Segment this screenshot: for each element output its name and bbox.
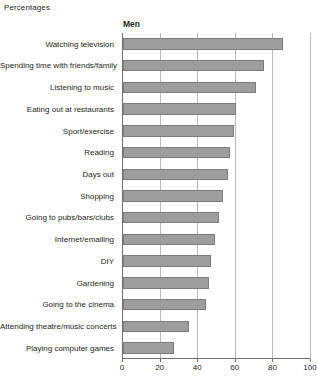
plot-area (122, 33, 310, 359)
bar (123, 147, 230, 159)
category-label: Reading (0, 148, 118, 157)
bar-row (122, 125, 310, 137)
units-label: Percentages (4, 3, 50, 12)
category-label: Sport/exercise (0, 127, 118, 136)
bar (123, 103, 236, 115)
bar-row (122, 342, 310, 354)
bar (123, 255, 211, 267)
category-label: Gardening (0, 279, 118, 288)
tick-mark (272, 359, 273, 362)
bar-row (122, 82, 310, 94)
bar-row (122, 103, 310, 115)
category-label: Spending time with friends/family (0, 61, 118, 70)
bar-row (122, 212, 310, 224)
bar-row (122, 299, 310, 311)
bar (123, 342, 174, 354)
tick-mark (197, 359, 198, 362)
category-label: Going to the cinema (0, 300, 118, 309)
bar-row (122, 169, 310, 181)
chart-page: Percentages Men Watching televisionSpend… (0, 0, 317, 386)
x-tick-label: 80 (268, 363, 277, 372)
bar (123, 190, 223, 202)
gridline (310, 33, 311, 359)
x-tick-label: 100 (303, 363, 316, 372)
bar-row (122, 255, 310, 267)
tick-mark (310, 359, 311, 362)
bar (123, 212, 219, 224)
bar-row (122, 321, 310, 333)
category-label: Going to pubs/bars/clubs (0, 213, 118, 222)
category-label: DIY (0, 257, 118, 266)
category-label: Internet/emailing (0, 235, 118, 244)
bar (123, 82, 256, 94)
x-tick-label: 0 (120, 363, 124, 372)
bar-row (122, 190, 310, 202)
bar (123, 234, 215, 246)
bar (123, 38, 283, 50)
tick-mark (160, 359, 161, 362)
bar (123, 169, 228, 181)
x-axis-tick-labels: 020406080100 (122, 363, 310, 377)
x-tick-label: 20 (155, 363, 164, 372)
category-label: Attending theatre/music concerts (0, 322, 118, 331)
category-axis-labels: Watching televisionSpending time with fr… (0, 33, 118, 359)
category-label: Playing computer games (0, 344, 118, 353)
category-label: Eating out at restaurants (0, 105, 118, 114)
bar-series (122, 33, 310, 359)
x-tick-label: 60 (230, 363, 239, 372)
category-label: Listening to music (0, 83, 118, 92)
bar (123, 277, 209, 289)
category-label: Watching television (0, 40, 118, 49)
bar (123, 299, 206, 311)
bar-row (122, 147, 310, 159)
series-title: Men (123, 19, 140, 29)
bar-row (122, 277, 310, 289)
bar (123, 125, 234, 137)
bar (123, 60, 264, 72)
category-label: Days out (0, 170, 118, 179)
tick-mark (235, 359, 236, 362)
bar (123, 321, 189, 333)
tick-mark (122, 359, 123, 362)
bar-row (122, 234, 310, 246)
category-label: Shopping (0, 192, 118, 201)
x-tick-label: 40 (193, 363, 202, 372)
bar-row (122, 38, 310, 50)
bar-row (122, 60, 310, 72)
